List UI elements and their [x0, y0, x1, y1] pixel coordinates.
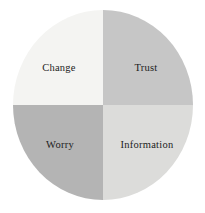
quadrant-circle-chart: Change Trust Worry Information: [13, 10, 193, 200]
chart-canvas: Change Trust Worry Information: [0, 0, 205, 213]
quadrant-change[interactable]: Change: [13, 10, 103, 105]
quadrant-label-trust: Trust: [101, 63, 191, 74]
quadrant-label-change: Change: [14, 63, 104, 74]
quadrant-information[interactable]: Information: [103, 105, 193, 200]
quadrant-label-information: Information: [102, 140, 192, 151]
quadrant-worry[interactable]: Worry: [13, 105, 103, 200]
quadrant-trust[interactable]: Trust: [103, 10, 193, 105]
quadrant-label-worry: Worry: [15, 140, 105, 151]
